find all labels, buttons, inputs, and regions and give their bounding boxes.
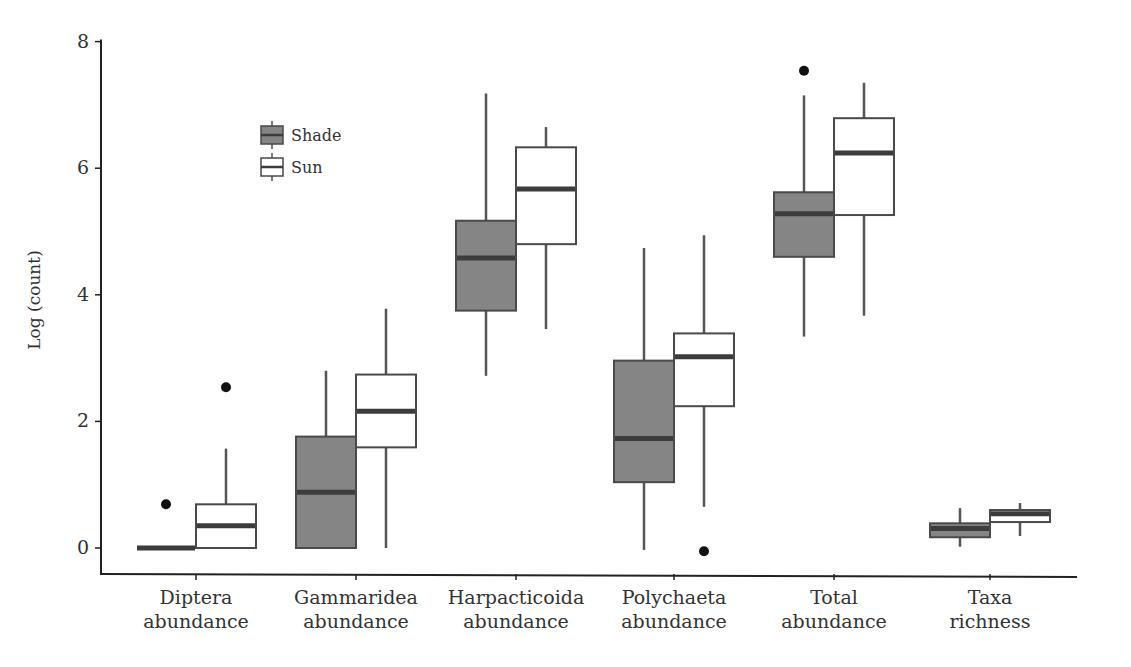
iqr-box xyxy=(516,147,576,244)
outlier-point xyxy=(799,66,809,76)
outlier-point xyxy=(699,546,709,556)
box-sun xyxy=(196,382,256,548)
category-label: Taxarichness xyxy=(949,586,1030,632)
category-label: Harpacticoidaabundance xyxy=(448,586,584,632)
legend-label: Sun xyxy=(291,158,323,177)
box-shade xyxy=(296,371,356,548)
y-tick-label: 2 xyxy=(77,409,89,431)
legend-label: Shade xyxy=(291,126,342,145)
category-label: Polychaetaabundance xyxy=(621,586,727,632)
iqr-box xyxy=(674,333,734,406)
legend: ShadeSun xyxy=(261,121,342,181)
boxplot-chart: 02468 DipteraabundanceGammarideaabundanc… xyxy=(0,0,1131,667)
iqr-box xyxy=(614,361,674,483)
y-tick-label: 4 xyxy=(77,283,89,305)
iqr-box xyxy=(456,221,516,311)
y-tick-label: 6 xyxy=(77,156,89,178)
box-sun xyxy=(516,127,576,329)
outlier-point xyxy=(161,499,171,509)
x-axis: DipteraabundanceGammarideaabundanceHarpa… xyxy=(100,574,1077,632)
legend-item-shade: Shade xyxy=(261,121,342,149)
box-sun xyxy=(834,83,894,316)
box-shade xyxy=(614,248,674,550)
category-label: Dipteraabundance xyxy=(143,586,249,632)
category-label: Gammarideaabundance xyxy=(294,586,418,632)
box-sun xyxy=(674,235,734,556)
y-axis-label: Log (count) xyxy=(24,250,44,350)
box-shade xyxy=(774,66,834,337)
legend-item-sun: Sun xyxy=(261,153,323,181)
box-sun xyxy=(356,309,416,548)
y-tick-label: 8 xyxy=(77,30,89,52)
iqr-box xyxy=(774,192,834,257)
outlier-point xyxy=(221,382,231,392)
x-axis-line xyxy=(100,574,1077,577)
box-shade xyxy=(930,508,990,547)
iqr-box xyxy=(834,118,894,215)
box-sun xyxy=(990,503,1050,536)
y-tick-label: 0 xyxy=(77,536,89,558)
y-axis: 02468 xyxy=(77,30,101,574)
category-label: Totalabundance xyxy=(781,586,887,632)
box-shade xyxy=(137,499,195,548)
box-shade xyxy=(456,94,516,376)
